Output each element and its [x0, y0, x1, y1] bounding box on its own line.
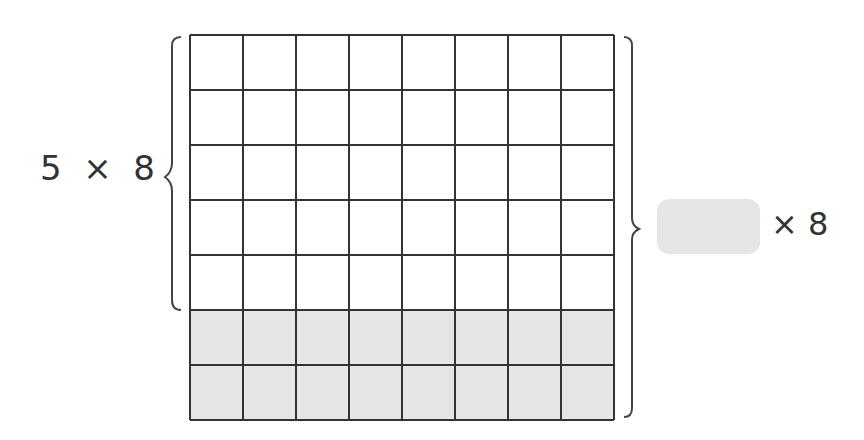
answer-input-box[interactable]: [657, 199, 760, 254]
area-model-diagram: 5 × 8 × 8: [0, 0, 864, 440]
left-brace-icon: [165, 37, 181, 310]
right-multiplication-label: × 8: [771, 205, 828, 243]
right-brace-icon: [624, 37, 639, 417]
left-multiplication-label: 5 × 8: [40, 148, 155, 188]
